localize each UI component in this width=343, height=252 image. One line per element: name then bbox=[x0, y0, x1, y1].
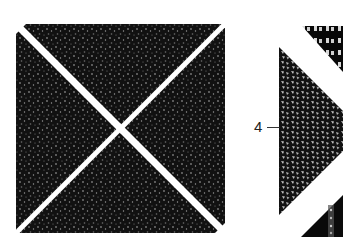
right-panel-bottom-region bbox=[301, 195, 343, 237]
callout-label-4: 4 bbox=[254, 119, 262, 134]
figure: 4 bbox=[0, 0, 343, 252]
right-panel-triangle bbox=[279, 47, 343, 215]
right-panel-top-region bbox=[302, 26, 343, 72]
figure-graphic bbox=[0, 0, 343, 252]
callout-leader-line bbox=[267, 127, 279, 128]
left-square-sample bbox=[16, 24, 225, 233]
